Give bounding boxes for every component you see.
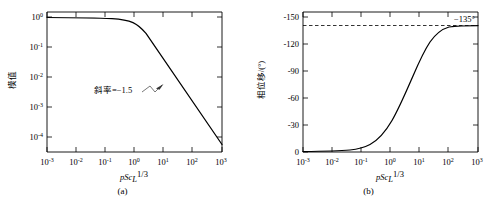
svg-text:103: 103 [215,157,227,167]
panel-b-x-axis-title: pScL1/3 [375,169,404,184]
ytick-b-5: 0 [295,147,299,157]
xtick-b-3: 0 [393,157,396,163]
panel-b-asymptote-label: −135° [454,14,475,24]
ytick-b-3: -60 [288,93,299,103]
panel-b-y-ticklabels: -150 -120 -90 -60 -30 0 [283,12,299,157]
panel-a-svg: 100 10-1 10-2 10-3 10-4 10-3 10-2 10-1 1… [0,0,245,200]
svg-text:10-1: 10-1 [354,157,368,167]
svg-text:10-3: 10-3 [296,157,310,167]
panel-a-y-ticklabels: 100 10-1 10-2 10-3 10-4 [30,12,44,142]
svg-text:103: 103 [471,157,483,167]
svg-text:10-4: 10-4 [30,132,44,142]
panel-b-svg: -150 -120 -90 -60 -30 0 10-3 10-2 10-1 1… [246,0,491,200]
xtick-a-2: -1 [107,157,112,163]
panel-b-phase-curve [303,26,478,152]
svg-text:102: 102 [442,157,454,167]
svg-text:102: 102 [186,157,198,167]
svg-text:10-2: 10-2 [69,157,83,167]
ytick-a-2: -2 [38,72,43,78]
panel-b-x-ticks [303,12,478,152]
xtick-a-6: 3 [224,157,227,163]
xtick-b-0: -3 [305,157,310,163]
panel-b-caption: (b) [246,186,491,196]
xtick-a-0: -3 [49,157,54,163]
ytick-a-4: -4 [38,132,43,138]
svg-text:100: 100 [128,157,140,167]
svg-text:101: 101 [413,157,425,167]
svg-text:10-3: 10-3 [30,102,44,112]
svg-text:10-1: 10-1 [98,157,112,167]
xtick-a-5: 2 [195,157,198,163]
panel-a-slope-annotation: 斜率=−1.5 [94,84,164,95]
panel-a-caption: (a) [0,186,245,196]
ytick-a-1: -1 [38,42,43,48]
xtick-b-5: 2 [451,157,454,163]
xtick-a-3: 0 [137,157,140,163]
svg-text:10-1: 10-1 [30,42,44,52]
panel-a-y-axis-title: 模值 [5,60,17,100]
xtick-b-1: -2 [334,157,339,163]
xtick-b-2: -1 [363,157,368,163]
ytick-b-2: -90 [288,66,299,76]
panel-a-magnitude-plot: 100 10-1 10-2 10-3 10-4 10-3 10-2 10-1 1… [0,0,245,200]
xtick-b-6: 3 [480,157,483,163]
panel-b-y-axis-title-text: 相位移/(°) [256,61,266,99]
svg-text:10-2: 10-2 [325,157,339,167]
xtick-b-4: 1 [422,157,425,163]
ytick-b-4: -30 [288,120,299,130]
xtick-a-1: -2 [78,157,83,163]
panel-a-y-axis-title-text: 模值 [7,71,17,89]
panel-b-phase-plot: -150 -120 -90 -60 -30 0 10-3 10-2 10-1 1… [246,0,491,200]
panel-a-magnitude-curve [47,18,222,145]
svg-text:100: 100 [384,157,396,167]
svg-text:100: 100 [32,12,44,22]
panel-a-x-ticklabels: 10-3 10-2 10-1 100 101 102 103 [40,157,227,167]
cropped-caption-strip [0,211,491,219]
panel-a-y-ticks [47,17,222,137]
panel-b-x-ticklabels: 10-3 10-2 10-1 100 101 102 103 [296,157,483,167]
ytick-b-1: -120 [283,39,299,49]
panel-a-x-axis-title: pScL1/3 [119,169,148,184]
xtick-a-4: 1 [166,157,169,163]
panel-a-axes [47,12,222,152]
ytick-b-0: -150 [283,12,299,22]
svg-text:10-3: 10-3 [40,157,54,167]
slope-annotation-text: 斜率=−1.5 [94,85,132,95]
ytick-a-3: -3 [38,102,43,108]
panel-b-y-ticks [303,17,478,152]
ytick-a-0: 0 [40,12,43,18]
panel-a-x-ticks [47,12,222,152]
svg-text:10-2: 10-2 [30,72,44,82]
panel-b-y-axis-title: 相位移/(°) [254,50,266,110]
svg-text:101: 101 [157,157,169,167]
panel-b-axes [303,12,478,152]
figure-container: 100 10-1 10-2 10-3 10-4 10-3 10-2 10-1 1… [0,0,491,219]
